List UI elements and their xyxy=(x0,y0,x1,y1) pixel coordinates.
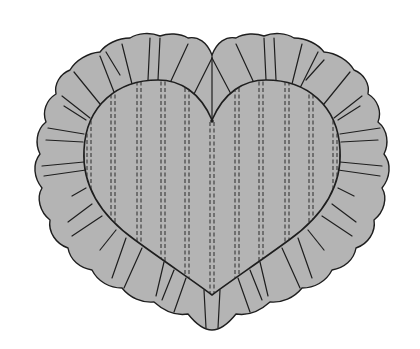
heart-pillow-illustration xyxy=(0,0,420,349)
center-button xyxy=(210,119,214,123)
illustration-canvas xyxy=(0,0,420,349)
